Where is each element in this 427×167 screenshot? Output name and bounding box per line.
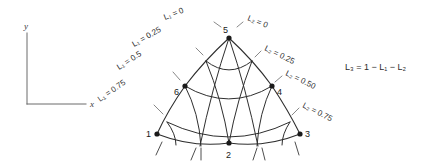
equation-l3: L₃ = 1 − L₁ − L₂ <box>345 62 406 72</box>
hatch-mark-right <box>295 142 299 155</box>
label-l2-075: L₂ = 0.75 <box>301 101 334 124</box>
node-dot-2[interactable] <box>226 140 231 145</box>
label-l1-075: L₁ = 0.75 <box>96 78 128 104</box>
contour-l1-000-inner <box>200 38 229 146</box>
leader-l1-025 <box>196 48 203 55</box>
label-l2-025: L₂ = 0.25 <box>263 44 296 66</box>
label-leaders <box>154 22 299 115</box>
hatch-mark-right-pair-b <box>262 148 265 160</box>
label-l1-025: L₁ = 0.25 <box>131 25 164 49</box>
hatch-mark-left-pair-a <box>191 148 196 160</box>
leader-l2-025 <box>255 51 261 57</box>
y-axis-label: y <box>23 21 28 31</box>
coordinate-axes: y x <box>23 21 94 109</box>
leader-l1-050 <box>173 72 180 80</box>
contour-arcs <box>167 61 290 137</box>
node-label-6: 6 <box>174 87 179 97</box>
node-label-1: 1 <box>146 129 151 139</box>
node-dot-5[interactable] <box>226 35 231 40</box>
leader-l2-050 <box>275 76 282 82</box>
contour-labels-l2: L₂ = 0 L₂ = 0.25 L₂ = 0.50 L₂ = 0.75 <box>246 14 334 124</box>
node-dot-3[interactable] <box>297 131 302 136</box>
label-l1-050: L₁ = 0.5 <box>115 49 143 72</box>
edge-1-6-5 <box>157 38 229 134</box>
contour-l2-000-inner <box>229 38 258 146</box>
node-label-5: 5 <box>223 25 228 35</box>
label-l1-000: L₁ = 0 <box>162 6 185 22</box>
leader-l2-000 <box>237 22 243 27</box>
arc-lower <box>167 122 290 137</box>
hatch-mark-right-pair-a <box>253 148 257 160</box>
contour-l1-050 <box>257 86 272 146</box>
node-label-4: 4 <box>277 87 282 97</box>
node-dot-4[interactable] <box>269 83 274 88</box>
arc-upper <box>206 61 252 70</box>
node-dot-1[interactable] <box>154 131 159 136</box>
leader-l2-075 <box>292 108 299 115</box>
figure-canvas: y x <box>0 0 427 167</box>
arc-mid-6-4 <box>185 86 272 99</box>
label-l2-050: L₂ = 0.50 <box>284 69 317 91</box>
x-axis-label: x <box>89 99 94 109</box>
hatch-mark-left <box>156 142 162 155</box>
leader-l1-000 <box>214 22 221 27</box>
label-l2-000: L₂ = 0 <box>246 14 269 30</box>
triangular-element-diagram: y x <box>0 0 427 167</box>
contour-l2-050 <box>185 86 201 146</box>
node-dot-6[interactable] <box>182 83 187 88</box>
leader-l1-075 <box>154 105 163 114</box>
node-label-2: 2 <box>226 150 231 160</box>
node-label-3: 3 <box>305 129 310 139</box>
contour-labels-l1: L₁ = 0 L₁ = 0.25 L₁ = 0.5 L₁ = 0.75 <box>96 6 185 104</box>
